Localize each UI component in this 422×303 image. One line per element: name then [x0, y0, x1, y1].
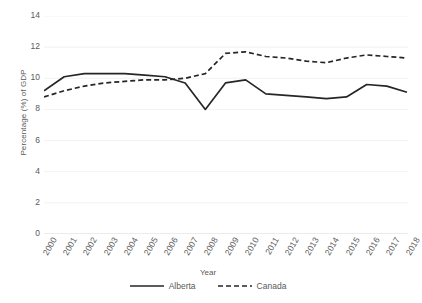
legend-swatch-dashed — [218, 282, 252, 290]
gridlines — [44, 16, 408, 234]
series-line-alberta — [44, 74, 407, 110]
data-series-layer — [44, 52, 407, 110]
y-tick-label: 8 — [18, 104, 40, 113]
legend-label: Alberta — [169, 282, 196, 291]
legend-swatch-solid — [130, 282, 164, 290]
y-tick-label: 4 — [18, 167, 40, 176]
y-tick-label: 2 — [18, 198, 40, 207]
legend-label: Canada — [257, 282, 287, 291]
legend-item-alberta[interactable]: Alberta — [130, 282, 196, 291]
y-tick-label: 12 — [18, 42, 40, 51]
legend-item-canada[interactable]: Canada — [218, 282, 287, 291]
y-tick-label: 14 — [18, 11, 40, 20]
y-tick-label: 10 — [18, 73, 40, 82]
plot-svg — [44, 16, 408, 234]
y-axis-tick-labels: 02468101214 — [6, 0, 40, 303]
y-tick-label: 0 — [18, 229, 40, 238]
y-tick-label: 6 — [18, 136, 40, 145]
x-axis-title: Year — [0, 268, 416, 277]
chart-legend: AlbertaCanada — [0, 282, 416, 291]
plot-area — [44, 16, 408, 234]
